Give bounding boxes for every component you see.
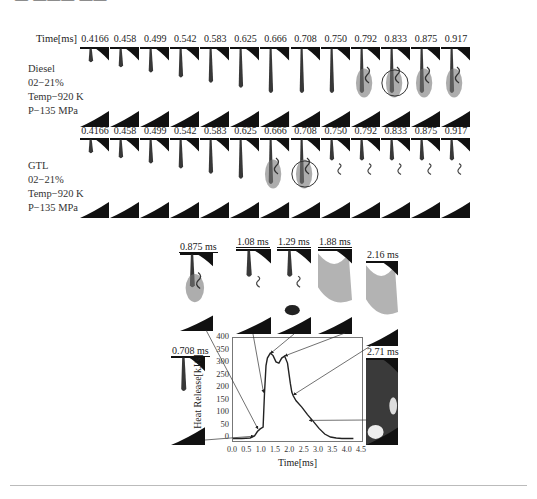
page-divider [10, 485, 527, 486]
annotation-arrows [0, 0, 537, 499]
